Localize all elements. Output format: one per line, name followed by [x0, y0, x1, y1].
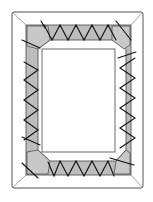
- frame-lacing-diagram: [0, 0, 153, 202]
- inner-window: [42, 49, 115, 152]
